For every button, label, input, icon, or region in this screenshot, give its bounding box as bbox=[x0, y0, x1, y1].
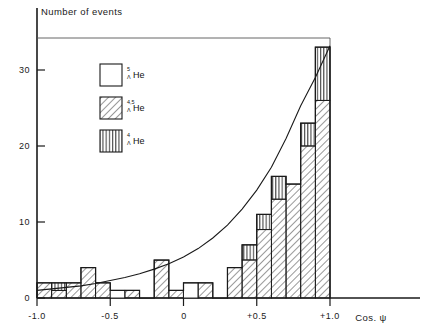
histogram-segment bbox=[301, 146, 316, 298]
histogram-segment bbox=[154, 260, 169, 298]
legend-element-label: He bbox=[133, 70, 145, 80]
histogram-segment bbox=[52, 290, 67, 298]
x-tick-label-pos1: +1.0 bbox=[320, 311, 340, 321]
histogram-segment bbox=[242, 245, 257, 260]
y-tick-label-0: 0 bbox=[24, 293, 30, 303]
histogram-segment bbox=[315, 100, 330, 298]
y-tick-label-20: 20 bbox=[19, 141, 30, 151]
y-tick-label-30: 30 bbox=[19, 65, 30, 75]
chart-svg: 0 10 20 30 -1.0 -0.5 0 +0.5 +1.0 Number … bbox=[0, 0, 428, 336]
histogram-segment bbox=[125, 290, 140, 298]
histogram-segment bbox=[271, 199, 286, 298]
histogram-segment bbox=[198, 283, 213, 298]
legend: 5ΛHe4,5ΛHe4ΛHe bbox=[100, 64, 145, 152]
chart-figure: 0 10 20 30 -1.0 -0.5 0 +0.5 +1.0 Number … bbox=[0, 0, 428, 336]
legend-subscript: Λ bbox=[127, 74, 131, 80]
legend-element-label: He bbox=[133, 103, 145, 113]
x-axis-title: Cos. ψ bbox=[355, 312, 386, 323]
histogram-segment bbox=[184, 283, 199, 298]
histogram-segment bbox=[110, 290, 125, 298]
histogram-segment bbox=[301, 123, 316, 146]
legend-swatch-diagonal-hatch bbox=[100, 97, 122, 119]
legend-superscript: 5 bbox=[127, 66, 130, 72]
histogram-segment bbox=[52, 283, 67, 291]
histogram-segment bbox=[257, 214, 272, 229]
x-tick-label-0: 0 bbox=[181, 311, 187, 321]
legend-swatch-open bbox=[100, 64, 122, 86]
histogram-segment bbox=[227, 268, 242, 298]
x-tick-label-pos05: +0.5 bbox=[247, 311, 267, 321]
legend-swatch-vertical-hatch bbox=[100, 130, 122, 152]
y-axis-title: Number of events bbox=[41, 6, 122, 17]
legend-subscript: Λ bbox=[127, 107, 131, 113]
histogram-segment bbox=[286, 184, 301, 298]
legend-element-label: He bbox=[133, 136, 145, 146]
histogram-segment bbox=[257, 230, 272, 298]
legend-superscript: 4 bbox=[127, 132, 130, 138]
x-tick-label-neg05: -0.5 bbox=[101, 311, 119, 321]
histogram-segment bbox=[169, 290, 184, 298]
y-tick-label-10: 10 bbox=[19, 217, 30, 227]
x-tick-label-neg1: -1.0 bbox=[28, 311, 46, 321]
histogram-segment bbox=[66, 283, 81, 298]
legend-subscript: Λ bbox=[127, 140, 131, 146]
histogram-segment bbox=[271, 176, 286, 199]
histogram-segment bbox=[242, 260, 257, 298]
histogram-segment bbox=[81, 268, 96, 298]
histogram-segment bbox=[96, 283, 111, 298]
